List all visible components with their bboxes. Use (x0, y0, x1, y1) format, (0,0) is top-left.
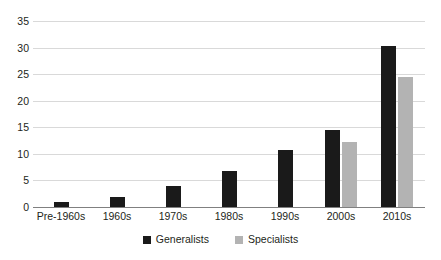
bar-group (145, 21, 201, 207)
chart-legend: GeneralistsSpecialists (0, 234, 441, 245)
x-axis: Pre-1960s1960s1970s1980s1990s2000s2010s (33, 210, 425, 226)
legend-swatch-icon (235, 236, 243, 244)
bar-generalists-1970s (166, 186, 181, 207)
x-axis-tick-label: 1990s (257, 210, 313, 223)
legend-item-generalists[interactable]: Generalists (143, 234, 209, 245)
bar-generalists-1980s (222, 171, 237, 207)
bar-group (369, 21, 425, 207)
x-axis-tick-label: Pre-1960s (33, 210, 89, 223)
bar-group (257, 21, 313, 207)
x-axis-tick-label: 1970s (145, 210, 201, 223)
legend-swatch-icon (143, 236, 151, 244)
bar-chart: 05101520253035 Pre-1960s1960s1970s1980s1… (0, 0, 441, 260)
y-axis-tick-label: 5 (3, 175, 29, 185)
bar-generalists-1990s (278, 150, 293, 207)
bar-generalists-2000s (325, 130, 340, 207)
bar-specialists-2000s (342, 142, 357, 207)
legend-label: Specialists (248, 234, 298, 245)
y-axis-tick-label: 20 (3, 96, 29, 106)
bar-group (89, 21, 145, 207)
x-axis-line (33, 207, 425, 208)
legend-item-specialists[interactable]: Specialists (235, 234, 298, 245)
y-axis-tick-label: 0 (3, 202, 29, 212)
bar-specialists-2010s (398, 77, 413, 207)
y-axis-tick-label: 35 (3, 16, 29, 26)
bar-generalists-1960s (110, 197, 125, 207)
y-axis-tick-label: 25 (3, 69, 29, 79)
legend-label: Generalists (156, 234, 209, 245)
bar-generalists-pre-1960s (54, 202, 69, 207)
x-axis-tick-label: 2000s (313, 210, 369, 223)
y-axis: 05101520253035 (0, 21, 29, 207)
bar-group (201, 21, 257, 207)
y-axis-tick-label: 10 (3, 149, 29, 159)
x-axis-tick-label: 2010s (369, 210, 425, 223)
x-axis-tick-label: 1960s (89, 210, 145, 223)
y-axis-tick-label: 30 (3, 43, 29, 53)
bar-group (313, 21, 369, 207)
bar-generalists-2010s (381, 46, 396, 207)
bars-layer (33, 21, 425, 207)
y-axis-tick-label: 15 (3, 122, 29, 132)
x-axis-tick-label: 1980s (201, 210, 257, 223)
bar-group (33, 21, 89, 207)
